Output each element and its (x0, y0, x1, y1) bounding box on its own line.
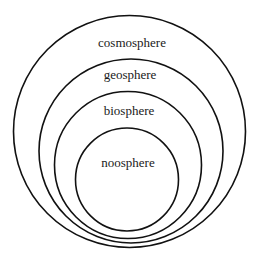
noosphere-label: noosphere (101, 155, 155, 170)
geosphere-label: geosphere (104, 67, 157, 82)
biosphere-label: biosphere (104, 103, 155, 118)
nested-spheres-diagram: cosmosphere geosphere biosphere noospher… (0, 0, 259, 265)
cosmosphere-label: cosmosphere (98, 35, 166, 50)
